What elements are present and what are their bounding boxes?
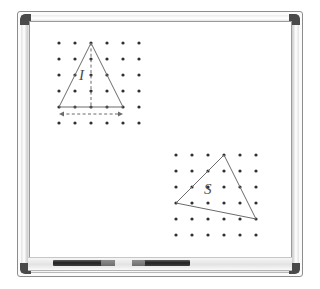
- scalene-triangle-figure: S: [171, 150, 265, 244]
- pen-tray[interactable]: [28, 257, 292, 271]
- whiteboard: I: [17, 11, 303, 277]
- scalene-triangle-outline: [176, 155, 256, 219]
- isosceles-figure-canvas: I: [54, 38, 148, 132]
- marker-black-1[interactable]: [53, 260, 115, 266]
- screenshot-root: I: [0, 0, 320, 289]
- dot-grid-isosceles: [57, 41, 140, 124]
- isosceles-triangle-figure: I: [54, 38, 148, 132]
- base-measure-arrow: [59, 112, 123, 117]
- whiteboard-surface[interactable]: I: [29, 21, 292, 259]
- scalene-triangle-label: S: [204, 181, 212, 197]
- isosceles-triangle-label: I: [78, 67, 85, 83]
- marker-black-2[interactable]: [132, 260, 190, 266]
- scalene-figure-canvas: S: [171, 150, 265, 244]
- dot-grid-scalene: [174, 153, 257, 236]
